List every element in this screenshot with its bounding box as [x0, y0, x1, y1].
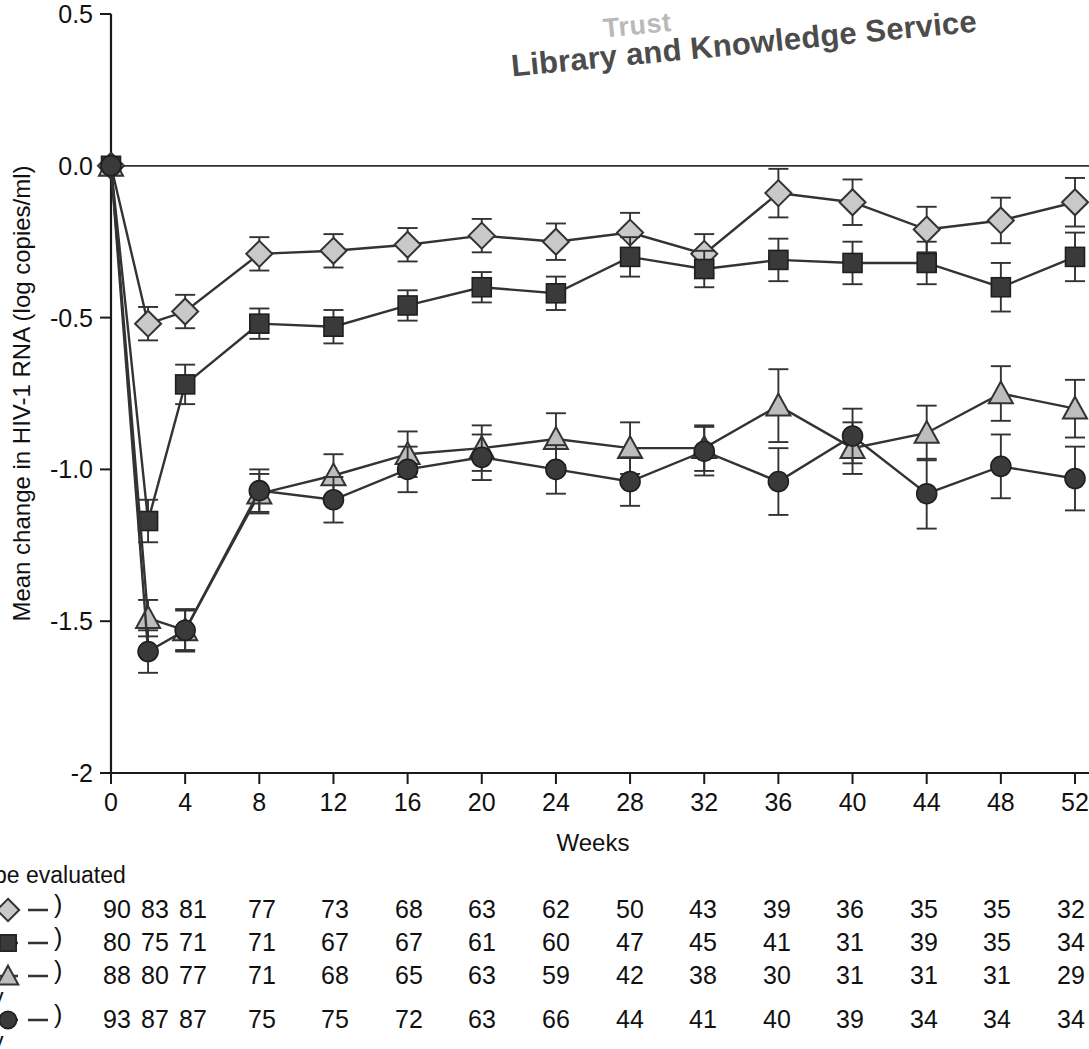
count-cell: 35 — [910, 895, 938, 924]
marker-circle — [101, 156, 121, 176]
marker-circle — [694, 441, 714, 461]
count-cell: 73 — [321, 895, 349, 924]
marker-triangle — [915, 421, 939, 443]
count-cell: 39 — [910, 928, 938, 957]
count-cell: 90 — [103, 895, 131, 924]
count-cell: 31 — [836, 961, 864, 990]
circle-series — [101, 156, 1085, 673]
x-tick-label: 32 — [690, 788, 718, 816]
y-tick-label: -1.0 — [50, 455, 93, 483]
marker-triangle — [766, 394, 790, 416]
count-cell: 67 — [321, 928, 349, 957]
count-cell: 43 — [689, 895, 717, 924]
y-axis-title: Mean change in HIV-1 RNA (log copies/ml) — [8, 165, 35, 621]
x-tick-label: 0 — [104, 788, 118, 816]
count-cell: 87 — [141, 1005, 169, 1034]
count-cell: 63 — [468, 961, 496, 990]
count-cell: 35 — [983, 895, 1011, 924]
count-cell: 66 — [542, 1005, 570, 1034]
marker-circle — [546, 459, 566, 479]
marker-diamond — [543, 229, 569, 255]
count-cell: 77 — [179, 961, 207, 990]
x-axis-title: Weeks — [557, 829, 630, 856]
marker-square — [1066, 247, 1085, 266]
marker-square — [324, 317, 343, 336]
line-chart: 0.50.0-0.5-1.0-1.5-204812162024283236404… — [0, 0, 1089, 862]
count-cell: 65 — [395, 961, 423, 990]
marker-diamond — [135, 311, 161, 337]
count-cell: 75 — [141, 928, 169, 957]
marker-square — [176, 375, 195, 394]
count-cell: 80 — [141, 961, 169, 990]
x-tick-label: 8 — [252, 788, 266, 816]
count-cell: 88 — [103, 961, 131, 990]
marker-diamond — [469, 223, 495, 249]
count-cell: 72 — [395, 1005, 423, 1034]
count-cell: 68 — [395, 895, 423, 924]
count-cell: 34 — [983, 1005, 1011, 1034]
count-cell: 87 — [179, 1005, 207, 1034]
x-tick-label: 24 — [542, 788, 570, 816]
count-cell: 36 — [836, 895, 864, 924]
marker-square — [769, 250, 788, 269]
count-cell: 62 — [542, 895, 570, 924]
count-cell: 41 — [763, 928, 791, 957]
y-tick-label: -2 — [71, 759, 93, 787]
count-cell: 30 — [763, 961, 791, 990]
x-tick-label: 36 — [764, 788, 792, 816]
count-cell: 75 — [321, 1005, 349, 1034]
count-cell: 80 — [103, 928, 131, 957]
marker-circle — [138, 642, 158, 662]
patient-count-table: be evaluated ))))yy 90838177736863625043… — [0, 862, 1089, 1049]
y-tick-label: -1.5 — [50, 607, 93, 635]
count-cell: 61 — [468, 928, 496, 957]
count-cell: 34 — [1057, 928, 1085, 957]
count-row: 938787757572636644414039343434 — [0, 1005, 1089, 1037]
count-cell: 45 — [689, 928, 717, 957]
y-tick-label: 0.5 — [58, 0, 93, 28]
count-cell: 41 — [689, 1005, 717, 1034]
x-tick-label: 40 — [839, 788, 867, 816]
count-cell: 31 — [836, 928, 864, 957]
marker-square — [917, 253, 936, 272]
x-tick-label: 44 — [913, 788, 941, 816]
count-cell: 71 — [179, 928, 207, 957]
count-cell: 29 — [1057, 961, 1085, 990]
marker-square — [546, 284, 565, 303]
marker-diamond — [765, 180, 791, 206]
count-cell: 81 — [179, 895, 207, 924]
count-cell: 71 — [248, 928, 276, 957]
count-cell: 59 — [542, 961, 570, 990]
marker-square — [250, 314, 269, 333]
count-cell: 34 — [1057, 1005, 1085, 1034]
marker-circle — [768, 472, 788, 492]
count-cell: 31 — [910, 961, 938, 990]
count-cell: 93 — [103, 1005, 131, 1034]
y-tick-label: -0.5 — [50, 304, 93, 332]
marker-square — [398, 296, 417, 315]
count-cell: 71 — [248, 961, 276, 990]
count-cell: 35 — [983, 928, 1011, 957]
x-tick-label: 12 — [320, 788, 348, 816]
marker-circle — [843, 426, 863, 446]
count-cell: 68 — [321, 961, 349, 990]
x-tick-label: 20 — [468, 788, 496, 816]
count-cell: 47 — [616, 928, 644, 957]
count-cell: 75 — [248, 1005, 276, 1034]
marker-triangle — [136, 606, 160, 628]
marker-diamond — [246, 241, 272, 267]
marker-diamond — [320, 238, 346, 264]
x-tick-label: 4 — [178, 788, 192, 816]
marker-circle — [472, 447, 492, 467]
figure-root: Trust Library and Knowledge Service 0.50… — [0, 0, 1089, 1049]
marker-circle — [1065, 469, 1085, 489]
marker-diamond — [395, 232, 421, 258]
count-row: 807571716767616047454131393534 — [0, 928, 1089, 960]
count-cell: 31 — [983, 961, 1011, 990]
marker-square — [843, 253, 862, 272]
marker-diamond — [172, 299, 198, 325]
marker-circle — [323, 490, 343, 510]
count-cell: 63 — [468, 1005, 496, 1034]
marker-diamond — [1062, 189, 1088, 215]
marker-square — [695, 260, 714, 279]
